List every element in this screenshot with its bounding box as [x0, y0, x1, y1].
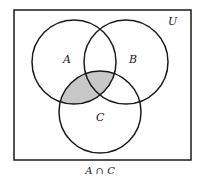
- set-label-b: B: [128, 53, 137, 66]
- set-label-c: C: [96, 111, 105, 124]
- venn-diagram: U A B C A ∩ C: [0, 0, 199, 181]
- set-label-a: A: [62, 53, 71, 66]
- circle-b: [84, 20, 168, 104]
- caption: A ∩ C: [84, 165, 115, 176]
- universe-label: U: [168, 15, 178, 28]
